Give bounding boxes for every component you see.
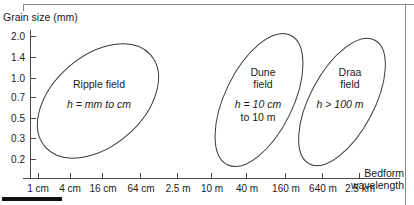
top-rule [24,5,414,12]
x-tick-label-4cm: 4 cm [59,183,81,194]
y-tick-label-0.3: 0.3 [3,133,25,144]
dune-field-label-line1: Dune [250,67,275,78]
x-tick-label-160m: 160 m [272,183,300,194]
y-axis-title: Grain size (mm) [3,12,78,23]
dune-field-height-note-line2: to 10 m [240,112,275,123]
y-tick-label-1.4: 1.4 [3,52,25,63]
ripple-field-height-note: h = mm to cm [67,99,131,110]
y-axis [31,30,36,179]
dune-field-label-line2: field [253,79,272,90]
x-tick-label-64cm: 64 cm [127,183,154,194]
dune-field-height-note-line1: h = 10 cm [235,99,281,110]
x-tick-label-16cm: 16 cm [89,183,116,194]
x-axis [23,173,400,179]
x-tick-label-1cm: 1 cm [27,183,49,194]
x-tick-label-2.5m: 2.5 m [165,183,190,194]
x-tick-label-40m: 40 m [236,183,258,194]
x-axis-title-line1: Bedform [364,168,404,179]
x-tick-label-10m: 10 m [201,183,223,194]
x-axis-title-line2: wavelength [351,180,404,191]
draa-field-height-note: h > 100 m [317,99,364,110]
bottom-left-rule [2,197,62,201]
draa-field-label-line1: Draa [339,67,362,78]
y-tick-label-0.7: 0.7 [3,92,25,103]
draa-field-label-line2: field [340,79,359,90]
figure-container: Grain size (mm) 2.0 1.4 1.0 0.7 0.5 0.3 … [0,0,414,205]
x-tick-label-640m: 640 m [309,183,337,194]
y-tick-label-1.0: 1.0 [3,73,25,84]
y-tick-label-2.0: 2.0 [3,31,25,42]
y-tick-label-0.2: 0.2 [3,154,25,165]
ripple-field-label: Ripple field [73,79,125,90]
y-tick-label-0.5: 0.5 [3,113,25,124]
